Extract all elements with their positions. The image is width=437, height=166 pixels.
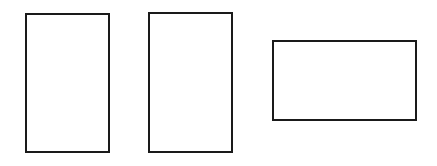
diagram-canvas (0, 0, 437, 166)
portrait-rectangle-1 (25, 13, 110, 153)
landscape-rectangle (272, 40, 417, 121)
portrait-rectangle-2 (148, 12, 233, 153)
